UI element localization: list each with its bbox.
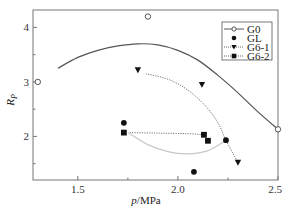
- legend: G0GLG6-1G6-2: [222, 22, 272, 62]
- fit-curves: [58, 44, 278, 163]
- filled-square-icon: [121, 130, 127, 136]
- x-tick-label: 2.0: [171, 183, 185, 195]
- legend-label: G6-2: [247, 50, 270, 62]
- triangle-down-icon: [199, 82, 205, 88]
- open-circle-icon: [145, 14, 150, 19]
- y-tick-label: 3: [24, 76, 30, 88]
- filled-circle-icon: [121, 120, 127, 126]
- triangle-down-icon: [135, 67, 141, 73]
- open-circle-icon: [232, 27, 236, 31]
- y-tick-label: 4: [24, 21, 30, 33]
- open-circle-icon: [35, 79, 40, 84]
- filled-circle-icon: [191, 169, 197, 175]
- curve-gl: [128, 133, 226, 154]
- filled-circle-icon: [232, 36, 237, 41]
- filled-square-icon: [205, 138, 211, 144]
- x-tick-label: 1.5: [71, 183, 85, 195]
- chart: 1.52.02.5234 p/MPa RP G0GLG6-1G6-2: [0, 0, 294, 209]
- y-tick-label: 2: [24, 130, 30, 142]
- filled-square-icon: [201, 132, 207, 138]
- x-axis-title: p/MPa: [130, 194, 160, 206]
- open-circle-icon: [275, 127, 280, 132]
- filled-circle-icon: [223, 137, 229, 143]
- curve-g6-2: [130, 133, 204, 135]
- y-axis-title: RP: [4, 94, 19, 107]
- filled-square-icon: [232, 54, 237, 59]
- triangle-down-icon: [235, 160, 241, 166]
- x-tick-label: 2.5: [268, 183, 282, 195]
